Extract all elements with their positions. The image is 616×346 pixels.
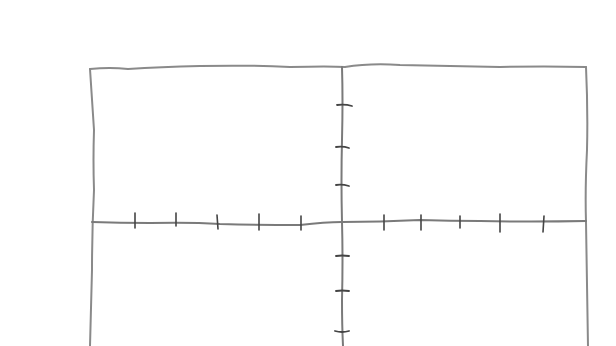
frame-left (90, 69, 94, 346)
axes (92, 67, 586, 346)
frame-right (586, 67, 588, 346)
x-axis (92, 220, 586, 225)
plot-frame (90, 64, 588, 346)
coordinate-plane-sketch (0, 0, 616, 346)
y-axis-ticks (335, 105, 352, 332)
frame-top (90, 64, 586, 69)
y-axis (342, 67, 344, 346)
